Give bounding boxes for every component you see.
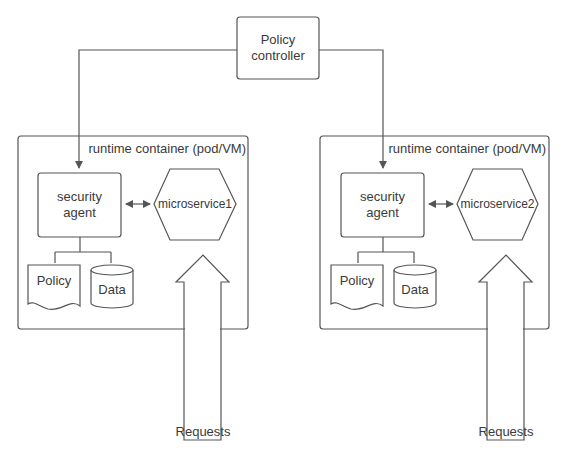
requests-arrow-1 bbox=[176, 255, 229, 440]
controller-label-line1: Policy bbox=[237, 32, 319, 48]
container-1-title: runtime container (pod/VM) bbox=[86, 141, 246, 157]
agent2-storage-connector bbox=[358, 237, 414, 263]
agent1-line1: security bbox=[38, 189, 121, 205]
agent2-line1: security bbox=[341, 189, 424, 205]
microservice2-label: microservice2 bbox=[457, 196, 538, 212]
policy-2-label: Policy bbox=[331, 273, 383, 289]
data-2-label: Data bbox=[394, 282, 436, 298]
agent1-line2: agent bbox=[38, 205, 121, 221]
policy-controller-label: Policy controller bbox=[237, 32, 319, 64]
container-2-title: runtime container (pod/VM) bbox=[388, 141, 546, 157]
agent1-storage-connector bbox=[55, 237, 111, 263]
requests-2-label: Requests bbox=[463, 424, 549, 440]
controller-label-line2: controller bbox=[237, 48, 319, 64]
microservice1-label: microservice1 bbox=[154, 196, 236, 212]
requests-1-label: Requests bbox=[160, 424, 246, 440]
policy-1-label: Policy bbox=[28, 273, 80, 289]
security-agent-2-label: security agent bbox=[341, 189, 424, 221]
data-1-label: Data bbox=[91, 282, 133, 298]
diagram-canvas bbox=[0, 0, 563, 454]
agent2-line2: agent bbox=[341, 205, 424, 221]
requests-arrow-2 bbox=[479, 255, 532, 440]
security-agent-1-label: security agent bbox=[38, 189, 121, 221]
controller-to-agent2-line bbox=[319, 50, 383, 168]
runtime-container-2 bbox=[320, 136, 549, 329]
